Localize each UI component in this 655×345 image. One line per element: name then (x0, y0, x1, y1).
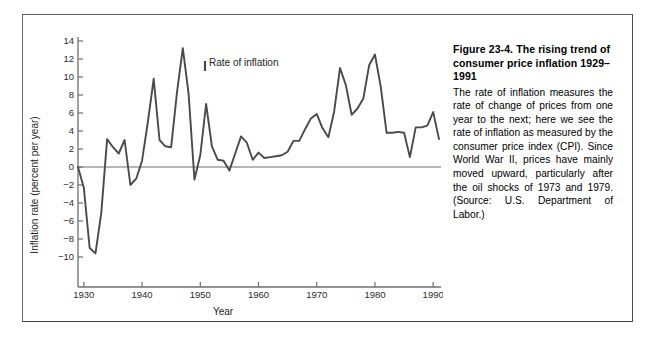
y-axis-tick-label: 6 (69, 107, 74, 118)
series-line-rate-of-inflation (78, 48, 439, 253)
y-axis-tick-label: 2 (69, 143, 74, 154)
y-axis-tick-label: 12 (63, 53, 74, 64)
y-axis-title: Inflation rate (percent per year) (29, 116, 40, 253)
series-annotation-label: Rate of inflation (209, 57, 279, 68)
x-axis-tick-label: 1960 (248, 289, 269, 300)
figure-caption-title: Figure 23-4. The rising trend of consume… (453, 43, 613, 84)
y-axis-tick-label: 14 (63, 35, 74, 46)
series-layer (78, 48, 439, 253)
x-axis-tick-label: 1980 (364, 289, 385, 300)
y-axis-tick-label: 10 (63, 71, 74, 82)
x-axis-tick-label: 1990 (423, 289, 443, 300)
x-axis-tick-label: 1950 (190, 289, 211, 300)
y-axis-tick-label: −4 (63, 197, 74, 208)
y-axis-tick-label: −8 (63, 233, 74, 244)
x-axis-tick-label: 1970 (306, 289, 327, 300)
y-axis-tick-label: −6 (63, 215, 74, 226)
y-axis-tick-label: −2 (63, 179, 74, 190)
axis-layer (78, 37, 441, 287)
tick-label-layer: −10−8−6−4−202468101214193019401950196019… (58, 35, 443, 300)
y-axis-tick-label: 8 (69, 89, 74, 100)
figure-frame: −10−8−6−4−202468101214193019401950196019… (22, 14, 633, 322)
x-axis-tick-label: 1930 (73, 289, 94, 300)
figure-caption-body: The rate of inflation measures the rate … (453, 86, 613, 222)
y-axis-tick-label: 0 (69, 161, 74, 172)
caption-block: Figure 23-4. The rising trend of consume… (453, 43, 613, 221)
x-axis-tick-label: 1940 (131, 289, 152, 300)
inflation-line-chart: −10−8−6−4−202468101214193019401950196019… (23, 15, 443, 323)
chart-panel: −10−8−6−4−202468101214193019401950196019… (23, 15, 443, 323)
x-axis-title: Year (213, 306, 234, 317)
y-axis-tick-label: −10 (58, 251, 74, 262)
y-axis-tick-label: 4 (69, 125, 74, 136)
